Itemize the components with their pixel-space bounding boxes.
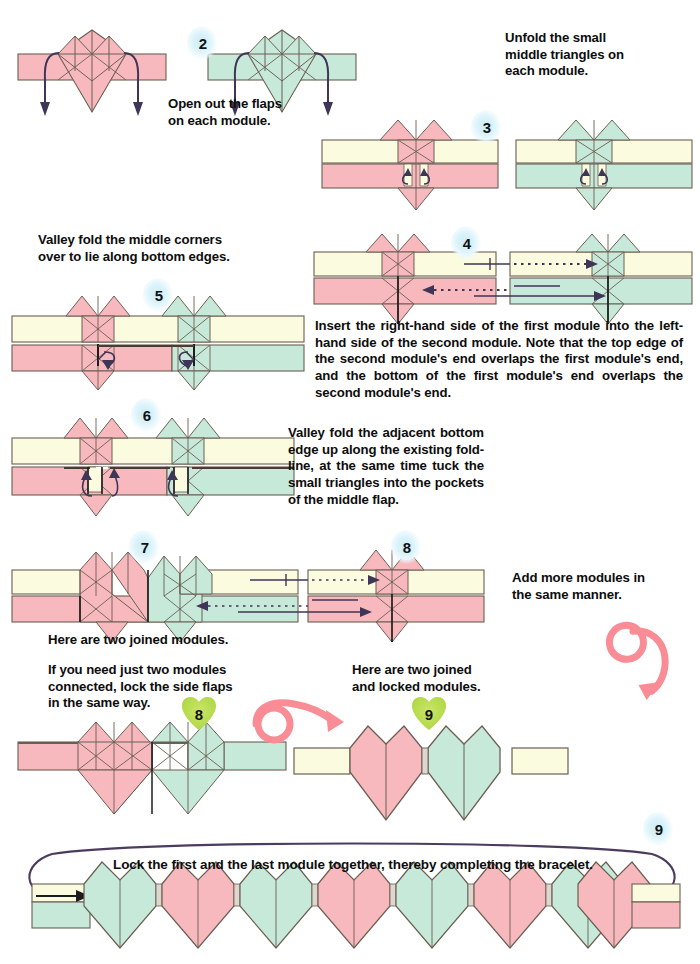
arrowhead xyxy=(40,102,50,116)
step-badge-9-bracelet: 9 xyxy=(642,812,676,846)
step-4-caption: Insert the right-hand side of the first … xyxy=(315,318,683,401)
step-badge-2: 2 xyxy=(186,26,220,60)
step-badge-9-locked: 9 xyxy=(412,697,446,731)
module-teal-unfolded xyxy=(516,120,692,210)
step-9-locked-caption: Here are two joined and locked modules. xyxy=(352,662,552,695)
step-number: 8 xyxy=(195,706,203,723)
turn-over-arrow-small xyxy=(242,694,352,750)
step-7-caption: Here are two joined modules. xyxy=(48,632,348,649)
module-pink-open xyxy=(18,30,166,112)
step-8-top-caption: Add more modules in the same manner. xyxy=(512,570,697,603)
step-6-caption: Valley fold the adjacent bottom edge up … xyxy=(288,425,484,508)
step-number: 3 xyxy=(483,119,491,136)
step-number: 4 xyxy=(463,235,471,252)
step-badge-4: 4 xyxy=(450,226,484,260)
step-badge-5: 5 xyxy=(142,278,176,312)
step-number: 9 xyxy=(425,706,433,723)
step-2-caption: Open out the flaps on each module. xyxy=(168,96,348,129)
step-3-caption: Unfold the small middle triangles on eac… xyxy=(505,30,695,80)
step-number: 2 xyxy=(199,35,207,52)
step-badge-6: 6 xyxy=(130,398,164,432)
step-9-bracelet-caption: Lock the first and the last module toget… xyxy=(88,856,618,873)
step-badge-7: 7 xyxy=(128,530,162,564)
step-number: 7 xyxy=(141,539,149,556)
module-teal-step4 xyxy=(510,234,692,324)
step-badge-8-top: 8 xyxy=(390,530,424,564)
step-8-top-diagram xyxy=(228,548,498,644)
bracelet-hearts xyxy=(84,862,650,948)
step-number: 8 xyxy=(403,539,411,556)
step-number: 6 xyxy=(143,407,151,424)
step-5-caption: Valley fold the middle corners over to l… xyxy=(38,232,298,265)
step-number: 9 xyxy=(655,821,663,838)
step-3-diagram xyxy=(322,118,692,212)
turn-over-arrow-large xyxy=(592,620,682,704)
step-number: 5 xyxy=(155,287,163,304)
step-badge-3: 3 xyxy=(470,110,504,144)
arrowhead xyxy=(133,102,143,116)
step-badge-8-lock: 8 xyxy=(182,697,216,731)
instruction-sheet: 2 Open out the flaps on each module. Unf… xyxy=(0,0,700,964)
step-4-diagram xyxy=(314,236,692,328)
